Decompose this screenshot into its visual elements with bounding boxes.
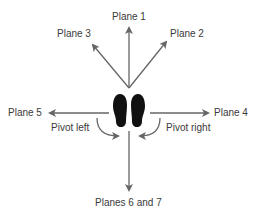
right-foot-icon [131,94,145,127]
plane-5-label: Plane 5 [8,107,42,119]
pivot-right-label: Pivot right [166,122,210,134]
planes-6-7-label: Planes 6 and 7 [95,197,162,209]
pivot-left-label: Pivot left [51,122,89,134]
plane-2-arrow [129,42,166,88]
left-foot-icon [113,94,127,127]
feet-icon [113,94,145,127]
pivot-right-arrow [140,118,160,136]
plane-4-label: Plane 4 [214,107,248,119]
pivot-left-arrow [97,118,118,136]
plane-3-label: Plane 3 [57,28,91,40]
plane-2-label: Plane 2 [170,28,204,40]
plane-1-label: Plane 1 [112,11,146,23]
plane-3-arrow [93,45,129,88]
